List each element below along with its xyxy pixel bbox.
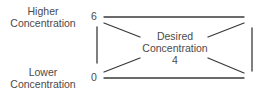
diagonal-bottom-right xyxy=(208,58,244,73)
diagonal-bottom-left xyxy=(104,58,140,72)
desired-value: 4 xyxy=(138,54,212,66)
desired-label-line1: Desired xyxy=(138,30,212,42)
concentration-diagram-lines xyxy=(0,0,261,91)
diagonal-top-right xyxy=(208,23,244,37)
desired-concentration-label: Desired Concentration 4 xyxy=(138,30,212,66)
diagonal-top-left xyxy=(104,23,140,37)
desired-label-line2: Concentration xyxy=(138,42,212,54)
